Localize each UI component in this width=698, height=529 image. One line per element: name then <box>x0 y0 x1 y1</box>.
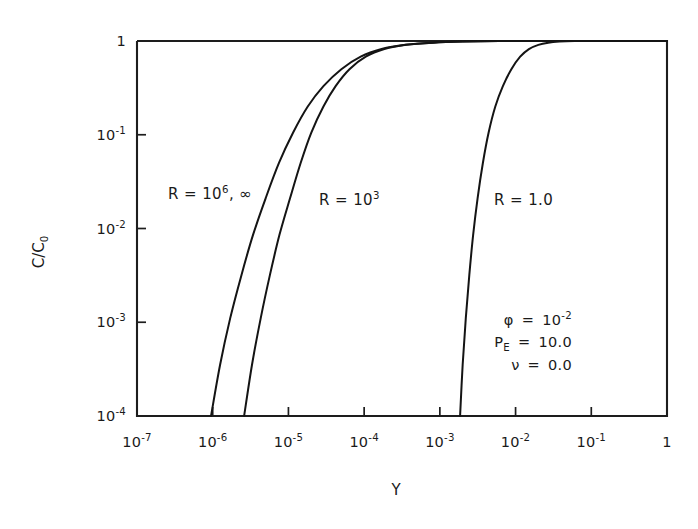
y-axis-tick-labels: 110-110-210-310-4 <box>97 33 126 424</box>
y-tick-label-0: 1 <box>117 33 126 49</box>
curve-label-r-1e6-tail: , ∞ <box>229 185 252 203</box>
annotation-phi-equals: = <box>522 312 534 328</box>
y-axis-ticks <box>137 135 146 323</box>
annotation-phi-exponent: -2 <box>561 310 572 321</box>
annotation-peclet-symbol: P <box>494 334 503 350</box>
curve-label-r-1e3: R = 103 <box>319 190 380 209</box>
curve-series-1 <box>244 41 667 416</box>
y-tick-label-2: 10-2 <box>97 219 126 237</box>
y-axis-title-text: C/C <box>30 242 48 268</box>
breakthrough-curve-figure: 10-710-610-510-410-310-210-11 110-110-21… <box>0 0 698 529</box>
svg-text:C/C0: C/C0 <box>30 236 50 269</box>
annotation-phi-symbol: φ <box>504 312 514 328</box>
annotation-phi-value: 10 <box>542 312 561 328</box>
annotation-phi: φ=10-2 <box>504 310 572 328</box>
parameter-annotation-block: φ=10-2 PE=10.0 ν=0.0 <box>494 310 572 373</box>
curve-label-r-1: R = 1.0 <box>494 191 553 209</box>
y-tick-label-4: 10-4 <box>97 406 126 424</box>
x-axis-title: Y <box>390 481 401 499</box>
annotation-peclet-equals: = <box>518 334 530 350</box>
plot-frame <box>137 41 667 416</box>
annotation-nu: ν=0.0 <box>511 357 572 373</box>
y-axis-title: C/C0 <box>30 236 50 269</box>
svg-text:R = 103: R = 103 <box>319 190 380 209</box>
y-tick-label-3: 10-3 <box>97 312 126 330</box>
x-tick-label-1: 10-6 <box>198 432 227 450</box>
x-tick-label-5: 10-2 <box>501 432 530 450</box>
x-axis-ticks <box>137 407 591 416</box>
annotation-nu-value: 0.0 <box>548 357 572 373</box>
annotation-peclet: PE=10.0 <box>494 334 572 353</box>
x-axis-tick-labels: 10-710-610-510-410-310-210-11 <box>122 432 671 450</box>
curve-label-r-1e6-text: R = 10 <box>168 185 222 203</box>
x-tick-label-0: 10-7 <box>122 432 151 450</box>
x-tick-label-4: 10-3 <box>425 432 454 450</box>
curve-series-0 <box>211 41 667 416</box>
annotation-nu-symbol: ν <box>511 357 519 373</box>
annotation-peclet-value: 10.0 <box>539 334 573 350</box>
annotation-peclet-subscript: E <box>503 342 510 353</box>
chart-svg: 10-710-610-510-410-310-210-11 110-110-21… <box>0 0 698 529</box>
annotation-nu-equals: = <box>528 357 540 373</box>
y-tick-label-1: 10-1 <box>97 125 126 143</box>
curve-label-r-1e3-exponent: 3 <box>373 190 380 201</box>
curve-label-r-1e6-exponent: 6 <box>222 184 229 195</box>
svg-text:R = 106, ∞: R = 106, ∞ <box>168 184 252 203</box>
x-tick-label-7: 1 <box>662 434 671 450</box>
x-tick-label-2: 10-5 <box>274 432 303 450</box>
curve-label-r-1e3-text: R = 10 <box>319 191 373 209</box>
x-tick-label-6: 10-1 <box>577 432 606 450</box>
x-tick-label-3: 10-4 <box>349 432 378 450</box>
curve-label-r-1-text: R = 1.0 <box>494 191 553 209</box>
curve-label-r-1e6: R = 106, ∞ <box>168 184 252 203</box>
data-curves <box>211 41 667 416</box>
y-axis-title-subscript: 0 <box>39 236 50 242</box>
